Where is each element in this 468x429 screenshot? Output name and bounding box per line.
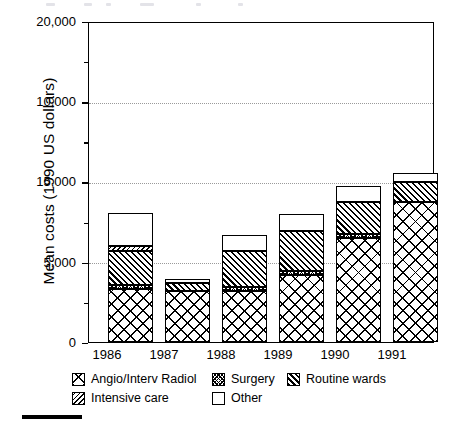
legend-swatch-intensive-care-icon [72,392,85,405]
x-tick-label-1991: 1991 [357,348,427,362]
segment-1986-intensive-care [108,246,153,251]
segment-1991-angio-interv-radiol [393,202,438,342]
segment-1990-angio-interv-radiol [336,238,381,342]
legend-label-surgery: Surgery [231,373,275,386]
segment-1988-angio-interv-radiol [222,291,267,342]
y-tick-label-20000: 20,000 [0,15,76,28]
segment-1987-angio-interv-radiol [165,291,210,342]
segment-1986-angio-interv-radiol [108,289,153,342]
legend-item-other: Other [212,389,262,408]
segment-1989-angio-interv-radiol [279,275,324,342]
legend-swatch-other-icon [212,392,225,405]
legend-swatch-angio-icon [72,373,85,386]
bar-1990 [336,186,381,343]
segment-1990-routine-wards [336,202,381,234]
segment-1988-other [222,235,267,251]
segment-1989-routine-wards [279,231,324,271]
legend-label-intensive-care: Intensive care [91,392,169,405]
legend-item-surgery: Surgery [212,370,275,389]
legend-item-intensive-care: Intensive care [72,389,169,408]
gridline-15000 [89,183,433,184]
bar-chart-figure: Mean costs (1990 US dollars) 20,000 15,0… [0,0,468,429]
segment-1989-other [279,214,324,232]
y-tick-label-10000: 10,000 [0,95,76,108]
segment-1986-routine-wards [108,251,153,286]
segment-1991-routine-wards [393,182,438,203]
legend-swatch-surgery-icon [212,373,225,386]
segment-1987-routine-wards [165,283,210,292]
y-tick-0 [82,343,88,344]
segment-1991-other [393,173,438,182]
legend-label-other: Other [231,392,262,405]
gridline-5000 [89,103,433,104]
bar-1989 [279,214,324,342]
y-tick-label-0: 0 [0,336,76,349]
y-tick-label-5000: 5,000 [0,256,76,269]
segment-1988-routine-wards [222,251,267,287]
segment-1986-surgery [108,285,153,289]
segment-1986-other [108,213,153,246]
scan-artifact-row [0,0,468,10]
legend-row-2: Intensive care Other [72,389,402,408]
bar-1988 [222,235,267,343]
legend-swatch-routine-wards-icon [287,373,300,386]
segment-1989-surgery [279,271,324,275]
bottom-rule [22,415,82,419]
bar-1991 [393,173,438,342]
legend-row-1: Angio/Interv Radiol Surgery Routine ward… [72,370,402,389]
chart-legend: Angio/Interv Radiol Surgery Routine ward… [72,370,402,408]
segment-1988-surgery [222,287,267,291]
legend-label-routine-wards: Routine wards [306,373,386,386]
bar-1986 [108,213,153,342]
legend-item-angio-interv-radiol: Angio/Interv Radiol [72,370,197,389]
segment-1987-other [165,279,210,283]
segment-1990-other [336,186,381,202]
segment-1990-surgery [336,234,381,238]
legend-item-routine-wards: Routine wards [287,370,386,389]
bar-1987 [165,279,210,342]
legend-label-angio-interv-radiol: Angio/Interv Radiol [91,373,197,386]
plot-area [88,22,434,343]
y-tick-label-15000: 15,000 [0,175,76,188]
